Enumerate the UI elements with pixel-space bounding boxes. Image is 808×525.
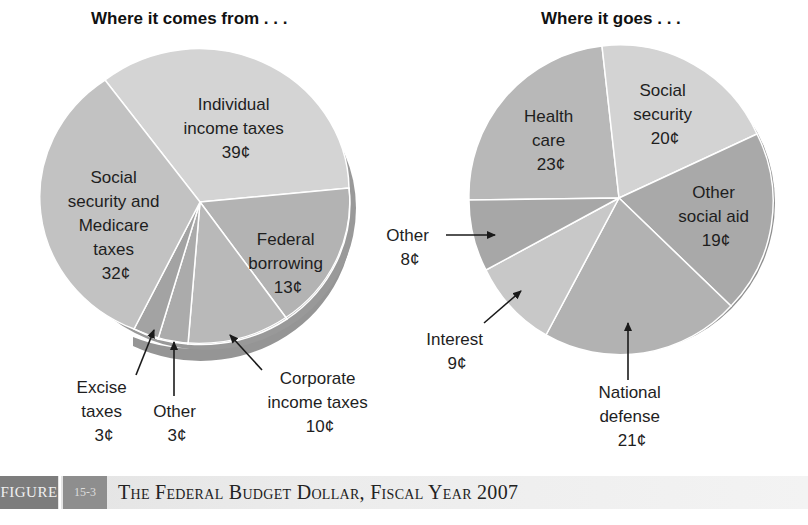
label-national-defense: National defense 21¢: [598, 383, 665, 450]
caption-separator: [59, 476, 61, 509]
label-other-spending: Other 8¢: [386, 226, 433, 269]
figure-caption-bar: FIGURE 15-3 The Federal Budget Dollar, F…: [0, 476, 808, 509]
figure-title: The Federal Budget Dollar, Fiscal Year 2…: [118, 476, 518, 509]
figure-number: 15-3: [63, 476, 107, 509]
left-pie: Individual income taxes 39¢ Social secur…: [40, 49, 373, 445]
label-excise-taxes: Excise taxes 3¢: [77, 378, 132, 445]
label-corporate-income-taxes: Corporate income taxes 10¢: [268, 369, 373, 436]
charts-canvas: Individual income taxes 39¢ Social secur…: [0, 0, 808, 470]
figure-label: FIGURE: [0, 476, 58, 509]
label-other-revenue: Other 3¢: [153, 402, 200, 445]
right-pie: Health care 23¢ Social security 20¢ Othe…: [386, 45, 779, 450]
label-interest: Interest 9¢: [426, 330, 487, 373]
